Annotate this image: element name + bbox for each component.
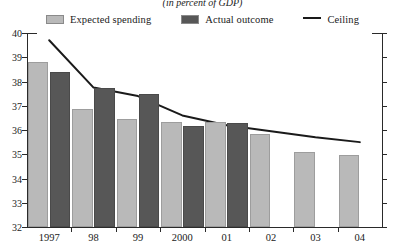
y-axis-tick xyxy=(22,82,27,83)
y-axis-tick-right xyxy=(382,130,387,131)
legend-item-ceiling: Ceiling xyxy=(303,14,359,25)
y-axis-label: 39 xyxy=(2,52,22,63)
x-axis-label: 01 xyxy=(221,232,232,243)
plot-area: 32333435363738394019979899200001020304 xyxy=(27,33,382,227)
bar-expected-spending xyxy=(339,155,360,227)
x-axis-label: 02 xyxy=(266,232,277,243)
y-axis-label: 38 xyxy=(2,76,22,87)
x-axis-tick xyxy=(338,227,339,232)
y-axis-label: 33 xyxy=(2,197,22,208)
y-axis-tick-right xyxy=(382,57,387,58)
y-axis-tick xyxy=(22,227,27,228)
bar-expected-spending xyxy=(205,122,226,227)
bar-expected-spending xyxy=(250,134,271,227)
y-axis-label: 34 xyxy=(2,173,22,184)
bar-actual-outcome xyxy=(94,88,115,227)
x-axis-label: 99 xyxy=(133,232,144,243)
y-axis-tick-right xyxy=(382,179,387,180)
bar-actual-outcome xyxy=(227,123,248,227)
x-axis-label: 03 xyxy=(310,232,321,243)
bar-expected-spending xyxy=(117,119,138,227)
y-axis-tick-right xyxy=(382,154,387,155)
bar-actual-outcome xyxy=(50,72,71,227)
x-axis-tick xyxy=(293,227,294,232)
y-axis-tick-right xyxy=(382,203,387,204)
legend-label-expected-spending: Expected spending xyxy=(70,14,151,25)
x-axis-label: 1997 xyxy=(39,232,60,243)
y-axis-label: 36 xyxy=(2,125,22,136)
chart-subtitle: (in percent of GDP) xyxy=(0,0,405,8)
x-axis-tick xyxy=(116,227,117,232)
legend-line-ceiling xyxy=(303,17,321,19)
y-axis-label: 37 xyxy=(2,100,22,111)
bar-actual-outcome xyxy=(183,126,204,227)
y-axis-label: 40 xyxy=(2,28,22,39)
bar-expected-spending xyxy=(294,152,315,227)
legend-label-ceiling: Ceiling xyxy=(327,14,359,25)
bar-expected-spending xyxy=(28,62,49,227)
x-axis-tick xyxy=(71,227,72,232)
bar-actual-outcome xyxy=(139,94,160,227)
y-axis-tick-right xyxy=(382,106,387,107)
x-axis-label: 98 xyxy=(88,232,99,243)
x-axis-label: 2000 xyxy=(172,232,193,243)
x-axis-tick xyxy=(205,227,206,232)
y-axis-tick-right xyxy=(382,33,387,34)
y-axis-tick xyxy=(22,179,27,180)
legend-swatch-actual-outcome xyxy=(181,15,199,24)
y-axis-label: 32 xyxy=(2,222,22,233)
x-axis-label: 04 xyxy=(355,232,366,243)
y-axis-tick xyxy=(22,57,27,58)
bar-expected-spending xyxy=(72,109,93,227)
x-axis-tick xyxy=(249,227,250,232)
y-axis-tick xyxy=(22,106,27,107)
y-axis-tick xyxy=(22,154,27,155)
y-axis-tick xyxy=(22,130,27,131)
chart-legend: Expected spending Actual outcome Ceiling xyxy=(0,12,405,26)
y-axis-tick-right xyxy=(382,227,387,228)
legend-label-actual-outcome: Actual outcome xyxy=(205,14,273,25)
y-axis-tick-right xyxy=(382,82,387,83)
y-axis-tick xyxy=(22,33,27,34)
legend-swatch-expected-spending xyxy=(46,15,64,24)
legend-item-actual-outcome: Actual outcome xyxy=(181,14,273,25)
x-axis-tick xyxy=(160,227,161,232)
y-axis-label: 35 xyxy=(2,149,22,160)
y-axis-tick xyxy=(22,203,27,204)
legend-item-expected-spending: Expected spending xyxy=(46,14,151,25)
bar-expected-spending xyxy=(161,122,182,227)
